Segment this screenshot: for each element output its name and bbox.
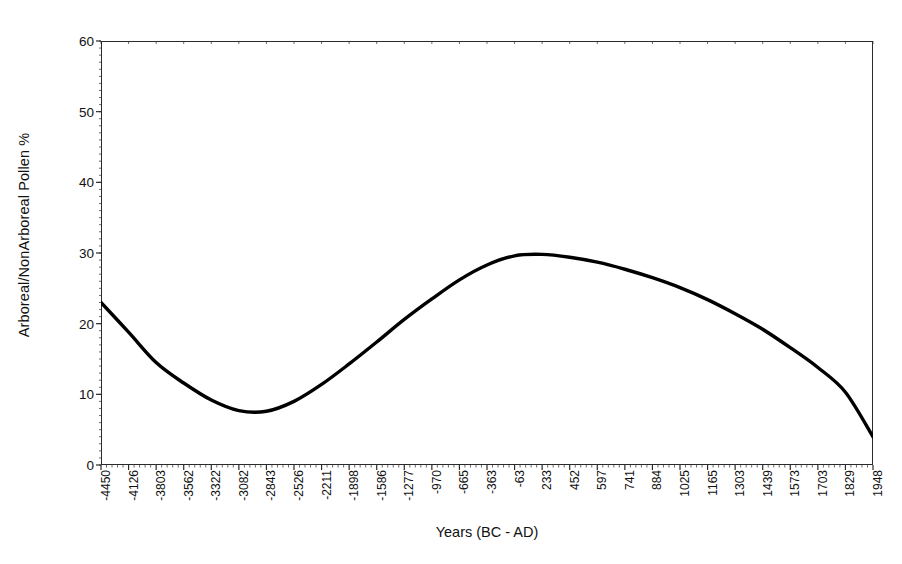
- x-axis-tick-label: -970: [430, 470, 444, 494]
- x-axis-tick-label: -1277: [402, 470, 416, 501]
- x-axis-tick-label: 1703: [816, 470, 830, 497]
- x-axis-tick-label: -2211: [320, 470, 334, 500]
- x-axis-tick-label: -63: [513, 470, 527, 487]
- x-axis-tick-label: -2843: [264, 470, 278, 501]
- x-axis-tick-label: 1303: [733, 470, 747, 497]
- x-axis-tick-label: -4126: [127, 470, 141, 501]
- x-axis-tick-label: -665: [457, 470, 471, 494]
- y-axis-tick-label: 10: [79, 387, 94, 402]
- x-axis-tick-labels: -4450-4126-3803-3562-3322-3082-2843-2526…: [101, 470, 873, 528]
- y-axis-tick-label: 20: [79, 316, 94, 331]
- y-axis-tick-labels: 0102030405060: [56, 41, 94, 465]
- x-axis-tick-label: -363: [485, 470, 499, 494]
- pollen-percentage-line-series: [101, 41, 873, 465]
- y-axis-tick-label: 60: [79, 34, 94, 49]
- x-axis-tick-label: 452: [568, 470, 582, 490]
- x-axis-tick-label: 1439: [761, 470, 775, 497]
- x-axis-tick-label: 597: [595, 470, 609, 490]
- x-axis-tick-label: 1573: [788, 470, 802, 497]
- y-axis-title-text: Arboreal/NonArboreal Pollen %: [16, 133, 32, 337]
- y-axis-tick-label: 50: [79, 104, 94, 119]
- x-axis-tick-label: -3322: [209, 470, 223, 501]
- y-axis-title: Arboreal/NonArboreal Pollen %: [4, 0, 44, 470]
- x-axis-tick-label: 1025: [678, 470, 692, 497]
- x-axis-tick-label: 1165: [706, 470, 720, 496]
- x-axis-tick-label: -3803: [154, 470, 168, 501]
- x-axis-tick-label: 1948: [871, 470, 885, 497]
- x-axis-tick-label: -3562: [182, 470, 196, 501]
- line-path: [101, 254, 873, 436]
- y-axis-tick-label: 0: [86, 458, 94, 473]
- x-axis-tick-label: 233: [540, 470, 554, 490]
- chart-container: Arboreal/NonArboreal Pollen % 0102030405…: [0, 0, 902, 564]
- x-axis-title: Years (BC - AD): [101, 524, 873, 540]
- y-axis-tick-label: 40: [79, 175, 94, 190]
- x-axis-tick-label: 1829: [843, 470, 857, 497]
- x-axis-tick-label: -1898: [347, 470, 361, 501]
- x-axis-tick-label: -1586: [375, 470, 389, 501]
- x-axis-tick-label: -3082: [237, 470, 251, 501]
- x-axis-tick-label: 884: [650, 470, 664, 490]
- y-axis-tick-label: 30: [79, 246, 94, 261]
- x-axis-tick-label: -2526: [292, 470, 306, 501]
- x-axis-tick-label: -4450: [99, 470, 113, 501]
- x-axis-tick-label: 741: [623, 470, 637, 490]
